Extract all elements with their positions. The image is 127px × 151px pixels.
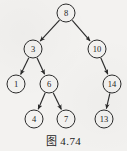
tree-edge-3-to-6	[37, 58, 45, 75]
tree-edge-8-to-3	[40, 20, 59, 41]
edges-layer	[21, 20, 110, 109]
binary-search-tree-diagram: 831016144713	[0, 0, 127, 151]
tree-edge-3-to-1	[21, 58, 29, 75]
node-label-10: 10	[93, 44, 102, 54]
tree-node-7: 7	[57, 110, 75, 128]
tree-node-1: 1	[7, 75, 25, 93]
tree-node-10: 10	[88, 40, 106, 58]
tree-node-3: 3	[24, 40, 42, 58]
tree-node-14: 14	[103, 75, 121, 93]
figure-container: 831016144713 图 4.74	[0, 0, 127, 151]
tree-edge-8-to-10	[72, 20, 90, 41]
node-label-6: 6	[47, 79, 51, 89]
node-label-8: 8	[64, 8, 68, 18]
tree-node-8: 8	[57, 4, 75, 22]
tree-node-4: 4	[25, 110, 43, 128]
tree-node-13: 13	[95, 110, 113, 128]
figure-caption: 图 4.74	[0, 132, 127, 148]
node-label-1: 1	[14, 79, 18, 89]
tree-edge-6-to-4	[38, 93, 45, 109]
tree-edge-6-to-7	[53, 93, 61, 110]
tree-edge-10-to-14	[101, 58, 108, 74]
tree-node-6: 6	[40, 75, 58, 93]
node-label-3: 3	[31, 44, 35, 54]
node-label-13: 13	[100, 114, 109, 124]
node-label-7: 7	[64, 114, 68, 124]
tree-edge-14-to-13	[106, 93, 109, 108]
node-label-14: 14	[108, 79, 117, 89]
